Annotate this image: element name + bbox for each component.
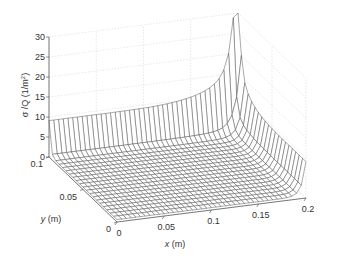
x-tick-label: 0.2 [302, 204, 315, 214]
z-tick-label: 20 [35, 72, 45, 82]
x-tick-label: 0.05 [157, 222, 175, 232]
x-tick-label: 0.15 [252, 210, 270, 220]
y-tick-label: 0 [106, 224, 111, 234]
y-tick [80, 190, 83, 191]
z-tick-label: 30 [35, 32, 45, 42]
z-tick-label: 25 [35, 52, 45, 62]
surface-plot: 05101520253000.050.10.150.200.050.1x (m)… [0, 0, 338, 256]
y-tick-label: 0.1 [30, 159, 43, 169]
x-axis-label: x (m) [164, 239, 186, 249]
z-axis-label: σ /Q (1/m2) [20, 73, 30, 117]
z-tick-label: 5 [40, 132, 45, 142]
surface-plot-figure: 05101520253000.050.10.150.200.050.1x (m)… [0, 0, 338, 256]
y-tick-label: 0.05 [59, 192, 77, 202]
y-axis-label: y (m) [40, 214, 62, 224]
z-tick-label: 10 [35, 112, 45, 122]
x-tick-label: 0.1 [207, 216, 220, 226]
z-tick-label: 15 [35, 92, 45, 102]
surface-mesh [49, 13, 306, 220]
x-tick-label: 0 [116, 228, 121, 238]
